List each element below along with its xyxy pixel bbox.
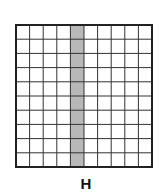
figure-label: H — [0, 176, 168, 192]
hundred-grid — [15, 24, 153, 168]
grid-graphic — [15, 24, 153, 168]
